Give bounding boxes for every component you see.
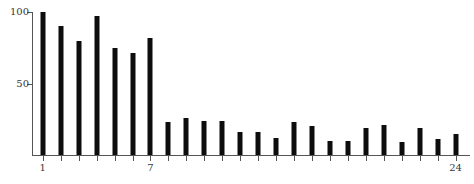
bar — [399, 142, 404, 155]
bar-chart: 10050 1724 — [0, 0, 474, 184]
bar — [220, 121, 225, 155]
bar — [148, 38, 153, 155]
x-tick-label: 24 — [449, 163, 462, 173]
x-tick-mark — [150, 156, 151, 161]
x-tick-mark — [222, 156, 223, 161]
y-tick-label: 50 — [16, 79, 29, 89]
bar — [130, 53, 135, 155]
bar — [58, 26, 63, 155]
bar — [310, 126, 315, 155]
y-tick-label: 100 — [10, 7, 29, 17]
x-tick-mark — [115, 156, 116, 161]
x-tick-mark — [43, 156, 44, 161]
bar — [417, 128, 422, 155]
x-tick-mark — [61, 156, 62, 161]
x-tick-mark — [240, 156, 241, 161]
x-tick-mark — [204, 156, 205, 161]
x-tick-mark — [348, 156, 349, 161]
bar — [202, 121, 207, 155]
bar — [363, 128, 368, 155]
x-tick-label: 7 — [147, 163, 153, 173]
bar — [292, 122, 297, 155]
bar — [327, 141, 332, 155]
x-tick-mark — [258, 156, 259, 161]
bar — [76, 41, 81, 155]
bar — [435, 139, 440, 155]
x-axis-line — [32, 155, 470, 156]
x-tick-mark — [79, 156, 80, 161]
bar — [238, 132, 243, 155]
x-tick-mark — [438, 156, 439, 161]
x-tick-mark — [384, 156, 385, 161]
x-tick-mark — [97, 156, 98, 161]
bar — [274, 138, 279, 155]
x-tick-mark — [366, 156, 367, 161]
bar — [40, 12, 45, 155]
x-tick-mark — [168, 156, 169, 161]
x-tick-mark — [402, 156, 403, 161]
bar — [256, 132, 261, 155]
bar — [381, 125, 386, 155]
bar — [166, 122, 171, 155]
bar — [94, 16, 99, 155]
x-tick-mark — [456, 156, 457, 161]
x-tick-mark — [186, 156, 187, 161]
x-tick-label: 1 — [40, 163, 46, 173]
bar — [112, 48, 117, 155]
bar — [345, 141, 350, 155]
bar — [184, 118, 189, 155]
x-tick-mark — [420, 156, 421, 161]
x-tick-mark — [330, 156, 331, 161]
x-tick-mark — [294, 156, 295, 161]
x-tick-mark — [276, 156, 277, 161]
bars-container — [32, 12, 470, 155]
x-tick-mark — [312, 156, 313, 161]
x-tick-mark — [133, 156, 134, 161]
bar — [453, 134, 458, 155]
